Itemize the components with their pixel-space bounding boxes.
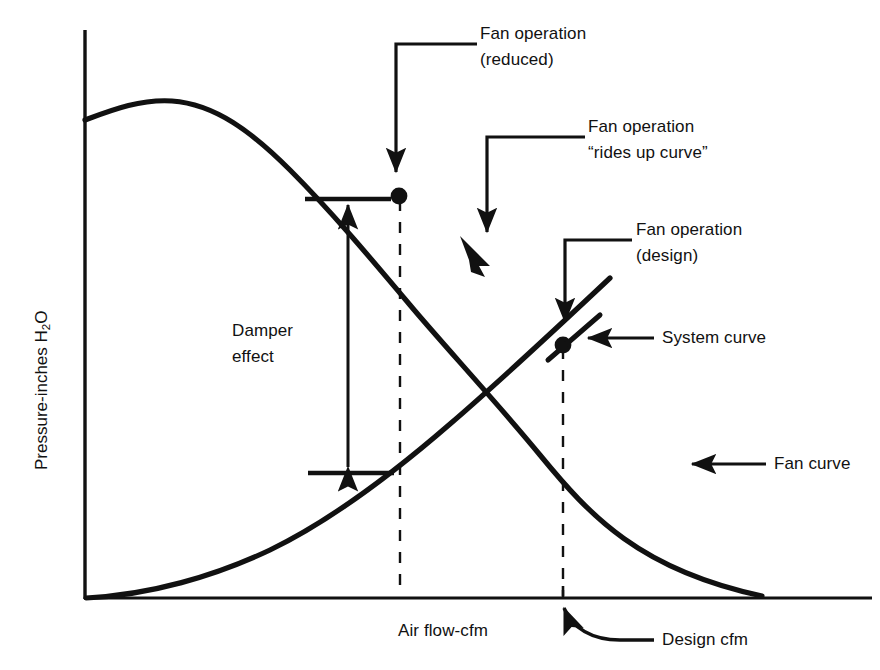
annotation-damper-effect-line2: effect: [232, 346, 274, 368]
annotation-fan-operation-design-line2: (design): [636, 245, 698, 267]
axis-group: [84, 30, 872, 599]
y-axis-label: Pressure-inches H2O: [32, 311, 52, 470]
leader-fan-operation-rides-up: [487, 137, 585, 232]
y-axis-label-tail: O: [32, 311, 51, 324]
damper-effect-measure: [305, 199, 394, 473]
fan-curve-path: [85, 101, 762, 596]
fan-operation-reduced-marker: [391, 188, 408, 205]
annotation-fan-operation-rides-line1: Fan operation: [588, 116, 694, 138]
x-axis-label: Air flow-cfm: [398, 620, 488, 642]
annotation-fan-operation-design-line1: Fan operation: [636, 219, 742, 241]
y-axis-label-main: Pressure-inches H: [32, 330, 51, 470]
annotation-damper-effect-line1: Damper: [232, 320, 293, 342]
y-axis-label-subscript: 2: [40, 324, 52, 330]
annotation-fan-operation-rides-line2: “rides up curve”: [588, 142, 708, 164]
annotation-system-curve: System curve: [662, 327, 766, 349]
diagram-canvas: Pressure-inches H2O Air flow-cfm Fan ope…: [0, 0, 880, 670]
annotation-fan-operation-reduced-line1: Fan operation: [480, 23, 586, 45]
leader-design-cfm: [564, 608, 654, 640]
leader-fan-operation-reduced: [396, 44, 477, 172]
rides-up-curve-arrowhead-icon: [460, 236, 490, 277]
annotation-fan-operation-reduced-line2: (reduced): [480, 49, 554, 71]
annotation-fan-curve: Fan curve: [774, 453, 851, 475]
annotation-design-cfm: Design cfm: [662, 629, 748, 651]
